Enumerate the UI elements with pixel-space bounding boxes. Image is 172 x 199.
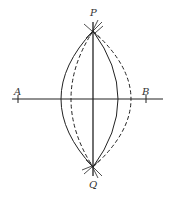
label-Q: Q [89,179,97,190]
label-P: P [89,7,97,18]
arc-marks-Q [82,160,102,178]
label-B: B [141,86,149,97]
label-A: A [13,86,21,97]
construction-diagram: A B P Q [0,0,172,199]
